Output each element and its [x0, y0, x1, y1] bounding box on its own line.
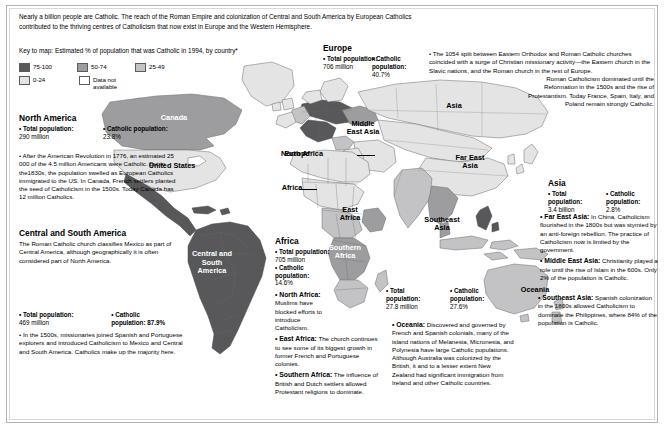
note-label: • Southeast Asia: [538, 294, 593, 301]
region-note-europe: • The 1054 split between Eastern Orthodo… [429, 50, 654, 75]
map-label-central-south-america: Central and South America [190, 250, 234, 276]
region-title: Asia [548, 178, 658, 188]
stat-value: 469 million [19, 319, 101, 327]
stat-catholic-population: • Catholic population: 87.9% [111, 311, 182, 327]
map-label-far-east-asia: Far East Asia [448, 154, 492, 171]
note-label: • Far East Asia: [540, 213, 589, 220]
stat-value: 27.8 million [386, 303, 440, 311]
note-label: • Middle East Asia: [540, 257, 600, 264]
stat-value: 27.6% [450, 303, 504, 311]
region-title: North America [19, 113, 179, 123]
note-text: Discovered and governed by French and Sp… [392, 321, 514, 386]
stat-label: • Total population: [19, 125, 74, 132]
stat-label: • Total population: [323, 55, 378, 62]
legend-label: 0-24 [33, 76, 45, 84]
stat-total-population: • Total population: 27.8 million [386, 287, 440, 311]
stat-catholic-population-europe: • Catholic population: 40.7% [372, 55, 432, 79]
legend-label: 75-100 [33, 63, 52, 71]
stat-label: • Total population: [19, 311, 74, 318]
stat-value: 23.8% [103, 133, 175, 141]
note-middle-east-asia: • Middle East Asia: Christianity played … [540, 256, 658, 282]
map-label-asia: Asia [434, 102, 474, 110]
legend-swatch-icon [77, 63, 88, 72]
legend-swatch-icon [19, 76, 30, 85]
infographic-page: Nearly a billion people are Catholic. Th… [0, 0, 664, 429]
region-note-oceania: • Oceania: Discovered and governed by Fr… [392, 320, 514, 387]
legend-item-0-24: 0-24 [19, 76, 70, 91]
stat-value: 705 million [275, 256, 337, 264]
stat-total-population: • Total population: 3.4 billion [548, 190, 596, 214]
key-to-map-caption: Key to map: Estimated % of population th… [19, 47, 238, 55]
region-title: Central and South America [19, 228, 182, 238]
stat-label: • Catholic population: [372, 55, 406, 70]
region-note-asia-fareast: • Far East Asia: In China, Catholicism f… [540, 212, 658, 282]
note-label: • Oceania: [392, 321, 425, 328]
stat-label: • Total population: [548, 190, 582, 205]
region-subnotes-africa: • North Africa: Muslims have blocked eff… [275, 290, 381, 396]
stat-label: • Catholic population: [103, 125, 168, 132]
region-title: Africa [275, 236, 337, 246]
legend-swatch-icon [19, 63, 30, 72]
region-block-africa: Africa • Total population: 705 million •… [275, 236, 337, 287]
map-label-middle-east-asia: Middle East Asia [346, 120, 380, 136]
map-label-europe: Europe [275, 150, 319, 158]
legend-swatch-icon [79, 76, 90, 85]
stat-catholic-population: • Catholic population: 27.6% [450, 287, 504, 311]
region-note-asia-southeast: • Southeast Asia: Spanish colonization i… [538, 293, 658, 327]
stat-label: • Total population: [386, 287, 420, 302]
region-note-north-america: • After the American Revolution in 1776,… [19, 152, 182, 202]
stat-label: • Catholic population: [606, 190, 640, 205]
stat-label: • Total population: [275, 248, 330, 255]
region-intro: The Roman Catholic church classifies Mex… [19, 240, 182, 265]
stat-value: 40.7% [372, 71, 432, 79]
region-stats-oceania: • Total population: 27.8 million • Catho… [386, 287, 504, 311]
region-block-north-america: North America • Total population: 290 mi… [19, 113, 179, 141]
stat-label: • Catholic population: [275, 264, 309, 279]
map-label-east-africa: East Africa [332, 206, 368, 223]
legend-item-75-100: 75-100 [19, 63, 68, 72]
region-note-central-south-america: • In the 1500s, missionaries joined Span… [19, 331, 184, 356]
region-title: Europe [323, 43, 385, 53]
stat-label: • Catholic population: [450, 287, 484, 302]
stat-value: population: 87.9% [111, 319, 182, 327]
intro-paragraph: Nearly a billion people are Catholic. Th… [19, 12, 439, 32]
region-stats-central-south-america: • Total population: 469 million • Cathol… [19, 311, 182, 327]
stat-label: • Catholic [111, 311, 140, 318]
stat-total-population: • Total population: 290 million [19, 125, 91, 141]
stat-total-population: • Total population: 469 million [19, 311, 101, 327]
stat-catholic-population: • Catholic population: 14.6% [275, 264, 337, 288]
note-north-africa: • North Africa: Muslims have blocked eff… [275, 290, 327, 332]
region-block-asia: Asia • Total population: 3.4 billion • C… [548, 178, 658, 214]
stat-value: 290 million [19, 133, 91, 141]
region-note-europe-2: Roman Catholicism dominated until the Re… [516, 75, 654, 108]
note-east-africa: • East Africa: The church continues to s… [275, 334, 381, 368]
stat-catholic-population: • Catholic population: 23.8% [103, 125, 175, 141]
note-label: • East Africa: [275, 335, 317, 342]
note-label: • North Africa: [275, 291, 321, 298]
region-block-central-south-america: Central and South America The Roman Cath… [19, 228, 182, 265]
map-label-southeast-asia: Southeast Asia [416, 216, 468, 233]
stat-total-population: • Total population: 705 million [275, 248, 337, 264]
stat-catholic-population: • Catholic population: 2.8% [606, 190, 658, 214]
note-southern-africa: • Southern Africa: The influence of Brit… [275, 370, 381, 396]
note-text: Muslims have blocked efforts to introduc… [275, 299, 322, 331]
stat-value: 14.6% [275, 279, 337, 287]
map-label-africa: Africa [272, 184, 312, 192]
leader-line-europe [357, 155, 375, 156]
note-label: • Southern Africa: [275, 371, 332, 378]
